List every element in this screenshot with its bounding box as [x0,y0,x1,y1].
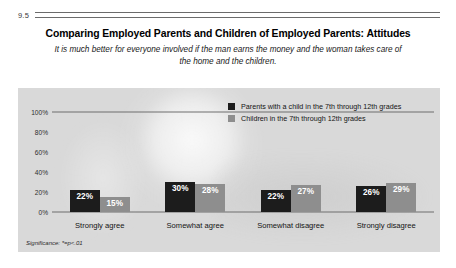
figure-number: 9.5 [18,11,29,20]
bar-group: 30%28% [148,112,244,212]
bar-value-label: 27% [298,187,314,197]
figure-number-row: 9.5 [0,8,456,22]
header-rule [35,12,440,18]
legend-item[interactable]: Children in the 7th through 12th grades [228,114,401,123]
x-axis-category-label: Somewhat agree [140,221,250,230]
legend-swatch-icon [228,103,235,110]
bar[interactable]: 15% [100,197,130,212]
bar-pair: 22%27% [243,112,339,212]
bar[interactable]: 22% [70,190,100,212]
y-axis-tick-label: 20% [24,189,48,196]
bar-value-label: 22% [268,192,284,202]
bar-pair: 30%28% [148,112,244,212]
legend-label: Parents with a child in the 7th through … [241,102,401,111]
bar[interactable]: 29% [386,183,416,212]
legend-label: Children in the 7th through 12th grades [241,114,366,123]
figure-page: 9.5 Comparing Employed Parents and Child… [0,0,456,268]
bar-group: 22%15% [52,112,148,212]
bar[interactable]: 27% [291,185,321,212]
bar-value-label: 30% [172,184,188,194]
figure-subtitle: It is much better for everyone involved … [50,44,406,67]
bar-value-label: 28% [202,186,218,196]
significance-footnote: Significance: *=p<.01 [26,240,83,246]
chart-panel: 0%20%40%60%80%100% 22%15%Strongly agree3… [18,88,440,252]
y-axis-tick-label: 40% [24,169,48,176]
y-axis-tick-label: 0% [24,209,48,216]
y-axis-tick-label: 80% [24,129,48,136]
y-axis-tick-label: 60% [24,149,48,156]
bar-value-label: 22% [77,192,93,202]
bar-value-label: 15% [107,199,123,209]
bar-group: 26%29% [339,112,435,212]
figure-title: Comparing Employed Parents and Children … [18,28,438,39]
legend-swatch-icon [228,115,235,122]
x-axis-category-label: Strongly disagree [331,221,440,230]
bar-value-label: 26% [363,188,379,198]
bar[interactable]: 26% [356,186,386,212]
bar-value-label: 29% [393,185,409,195]
x-axis-category-label: Somewhat disagree [236,221,346,230]
bar-pair: 22%15% [52,112,148,212]
legend-item[interactable]: Parents with a child in the 7th through … [228,102,401,111]
bar-group: 22%27% [243,112,339,212]
y-axis-tick-label: 100% [24,109,48,116]
x-axis-category-label: Strongly agree [45,221,155,230]
bar[interactable]: 28% [195,184,225,212]
chart-legend: Parents with a child in the 7th through … [228,102,401,126]
bar[interactable]: 30% [165,182,195,212]
bar[interactable]: 22% [261,190,291,212]
bar-pair: 26%29% [339,112,435,212]
